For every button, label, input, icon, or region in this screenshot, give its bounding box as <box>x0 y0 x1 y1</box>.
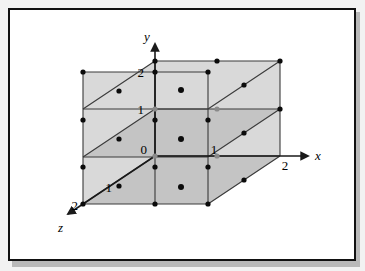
y-tick-2: 2 <box>138 65 145 80</box>
x-tick-1: 1 <box>211 142 218 157</box>
origin-label: 0 <box>141 142 148 157</box>
y-tick-1: 1 <box>138 102 145 117</box>
z-tick-1: 1 <box>106 180 113 195</box>
z-tick-2: 2 <box>72 198 79 213</box>
figure-canvas: y x z 2 1 0 1 2 1 2 <box>8 8 357 263</box>
page-background: y x z 2 1 0 1 2 1 2 <box>0 0 365 271</box>
x-axis-label: x <box>314 148 321 163</box>
y-axis-label: y <box>142 29 150 44</box>
x-tick-2: 2 <box>282 158 289 173</box>
z-axis-label: z <box>57 220 63 235</box>
